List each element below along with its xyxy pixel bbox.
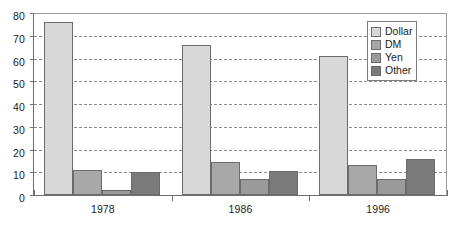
bar-dollar-1996 [319, 56, 348, 195]
bar-chart: 01020304050607080 197819861996 DollarDMY… [0, 0, 457, 235]
legend-item-label: Yen [385, 52, 403, 63]
x-axis-category-label: 1986 [211, 203, 271, 215]
y-axis-tick-label: 40 [0, 102, 30, 112]
legend-item-dm: DM [371, 38, 412, 51]
y-axis-tick-mark [30, 127, 34, 128]
legend-swatch-icon [371, 27, 381, 37]
chart-legend: DollarDMYenOther [367, 21, 417, 81]
legend-item-label: DM [385, 39, 401, 50]
bar-yen-1996 [377, 179, 406, 195]
y-axis-tick-mark [30, 59, 34, 60]
x-axis-tick-mark [309, 196, 310, 201]
y-axis-tick-mark [30, 172, 34, 173]
bar-dollar-1978 [44, 22, 73, 195]
x-axis-category-label: 1978 [73, 203, 133, 215]
legend-item-yen: Yen [371, 51, 412, 64]
legend-item-label: Other [385, 65, 411, 76]
bar-dm-1978 [73, 170, 102, 195]
y-axis-tick-label: 0 [0, 193, 30, 203]
x-axis-end-cap [447, 190, 448, 196]
x-axis-tick-mark [172, 196, 173, 201]
y-axis-tick-label: 50 [0, 79, 30, 89]
bar-dm-1996 [348, 165, 377, 195]
y-axis-tick-mark [30, 13, 34, 14]
y-axis-tick-label: 20 [0, 148, 30, 158]
bar-other-1996 [406, 159, 435, 195]
y-axis-tick-mark [30, 36, 34, 37]
y-axis-tick-label: 80 [0, 11, 30, 21]
bar-other-1986 [269, 171, 298, 195]
x-axis-line [33, 195, 447, 196]
y-axis-tick-label: 10 [0, 170, 30, 180]
y-axis-tick-mark [30, 195, 34, 196]
legend-item-label: Dollar [385, 26, 412, 37]
legend-swatch-icon [371, 40, 381, 50]
y-axis-tick-label: 60 [0, 57, 30, 67]
y-axis-labels: 01020304050607080 [0, 8, 30, 194]
y-axis-tick-mark [30, 81, 34, 82]
y-axis-tick-label: 30 [0, 125, 30, 135]
y-axis-tick-mark [30, 150, 34, 151]
x-axis-end-cap [34, 190, 35, 196]
y-axis-tick-mark [30, 104, 34, 105]
bar-other-1978 [131, 172, 160, 195]
legend-swatch-icon [371, 53, 381, 63]
bar-dollar-1986 [182, 45, 211, 195]
legend-item-other: Other [371, 64, 412, 77]
legend-item-dollar: Dollar [371, 25, 412, 38]
legend-swatch-icon [371, 66, 381, 76]
y-axis-tick-label: 70 [0, 34, 30, 44]
bar-yen-1986 [240, 179, 269, 195]
bar-dm-1986 [211, 162, 240, 195]
x-axis-category-label: 1996 [348, 203, 408, 215]
